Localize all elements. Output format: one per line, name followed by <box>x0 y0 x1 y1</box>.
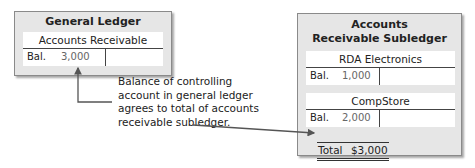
t-account-accounts-receivable: Accounts Receivable Bal. 3,000 <box>23 32 163 66</box>
subledger-total: Total $3,000 <box>317 142 389 161</box>
t-account-rda-electronics: RDA Electronics Bal. 1,000 <box>306 51 455 85</box>
t-account-row: Bal. 3,000 <box>23 49 163 66</box>
subledger-title-line2: Receivable Subledger <box>298 32 461 46</box>
annotation-line: account in general ledger <box>118 89 259 103</box>
balance-label: Bal. <box>310 112 329 123</box>
balance-label: Bal. <box>310 70 329 81</box>
subledger-panel: Accounts Receivable Subledger RDA Electr… <box>297 13 462 156</box>
annotation-line: receivable subledger. <box>118 116 259 130</box>
t-account-row: Bal. 1,000 <box>306 68 455 85</box>
t-account-compstore: CompStore Bal. 2,000 <box>306 93 455 127</box>
general-ledger-title: General Ledger <box>15 15 171 29</box>
t-account-divider <box>379 68 380 85</box>
total-label: Total <box>318 144 343 156</box>
total-value: $3,000 <box>351 144 388 156</box>
subledger-title-line1: Accounts <box>298 18 461 32</box>
t-account-row: Bal. 2,000 <box>306 110 455 127</box>
annotation-text: Balance of controlling account in genera… <box>118 75 259 129</box>
balance-label: Bal. <box>27 51 46 62</box>
t-account-divider <box>105 49 106 66</box>
t-account-name: RDA Electronics <box>306 51 455 68</box>
balance-value: 3,000 <box>61 51 90 62</box>
balance-value: 1,000 <box>342 70 371 81</box>
annotation-line: Balance of controlling <box>118 75 259 89</box>
balance-value: 2,000 <box>342 112 371 123</box>
general-ledger-panel: General Ledger Accounts Receivable Bal. … <box>14 11 172 76</box>
t-account-name: Accounts Receivable <box>23 32 163 49</box>
t-account-divider <box>379 110 380 127</box>
t-account-name: CompStore <box>306 93 455 110</box>
annotation-line: agrees to total of accounts <box>118 102 259 116</box>
